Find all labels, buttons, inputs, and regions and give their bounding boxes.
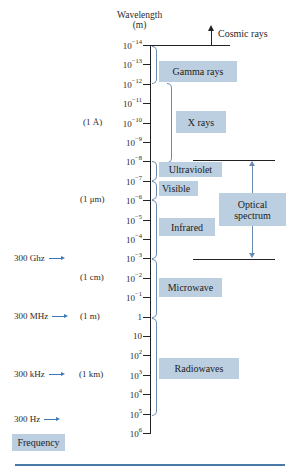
optical-arrow-down-icon (249, 253, 255, 258)
axis-tick-label: 10−11 (123, 96, 142, 109)
freq-300ghz: 300 Ghz (14, 253, 63, 263)
axis-title: Wavelength (m) (117, 10, 162, 30)
arrow-right-icon (44, 419, 58, 420)
axis-tick-label: 10−4 (126, 232, 142, 245)
axis-tick (143, 64, 151, 65)
axis-tick-label: 102 (130, 348, 142, 361)
axis-tick (143, 278, 151, 279)
infrared-brace (152, 200, 157, 259)
ultraviolet-box: Ultraviolet (159, 162, 222, 177)
axis-tick (143, 220, 151, 221)
axis-tick (143, 142, 151, 143)
axis-tick (143, 317, 151, 318)
bottom-rule (15, 464, 285, 466)
axis-tick-label: 10−6 (126, 193, 142, 206)
axis-tick (143, 433, 151, 434)
axis-tick (143, 414, 151, 415)
arrow-right-icon (49, 374, 63, 375)
cosmic-arrowhead-icon (208, 25, 214, 31)
optical-arrow-up-icon (249, 161, 255, 166)
gamma-brace (152, 46, 157, 84)
axis-tick-label: 10−12 (123, 77, 142, 90)
frequency-label-box: Frequency (12, 434, 65, 451)
axis-tick-label: 10−13 (123, 57, 142, 70)
axis-tick-label: 10−1 (126, 290, 142, 303)
axis-tick (143, 103, 151, 104)
axis-tick-label: 1 (138, 312, 143, 322)
axis-tick-label: 10−10 (123, 116, 142, 129)
optical-spectrum-box: Optical spectrum (219, 193, 286, 226)
freq-300hz: 300 Hz (14, 414, 58, 424)
top-cap-line (150, 45, 230, 46)
axis-tick-label: 10−2 (126, 271, 142, 284)
freq-300mhz: 300 MHz (14, 311, 66, 321)
axis-tick (143, 258, 151, 259)
radio-brace (152, 318, 157, 416)
axis-tick (143, 239, 151, 240)
axis-tick-label: 10−9 (126, 135, 142, 148)
axis-tick-label: 10−14 (123, 38, 142, 51)
arrow-right-icon (52, 316, 66, 317)
axis-tick-label: 105 (130, 407, 142, 420)
freq-300khz: 300 kHz (14, 369, 63, 379)
axis-tick (143, 394, 151, 395)
visible-box: Visible (159, 181, 198, 196)
axis-tick (143, 45, 151, 46)
optical-top-line (193, 160, 275, 161)
axis-tick-label: 10−8 (126, 154, 142, 167)
x-rays-box: X rays (176, 111, 226, 133)
axis-tick-label: 10 (133, 331, 142, 341)
axis-tick (143, 161, 151, 162)
arrow-right-icon (49, 258, 63, 259)
axis-tick-label: 106 (130, 426, 142, 439)
marker-1-angstrom: (1 Å) (83, 117, 102, 127)
uv-brace (152, 161, 157, 181)
marker-1-centimeter: (1 cm) (80, 272, 104, 282)
axis-tick (143, 123, 151, 124)
xray-brace (167, 83, 172, 163)
axis-tick-label: 103 (130, 368, 142, 381)
axis-tick (143, 336, 151, 337)
microwave-brace (152, 259, 157, 318)
gamma-rays-box: Gamma rays (159, 61, 237, 82)
axis-tick-label: 10−7 (126, 174, 142, 187)
axis-tick-label: 10−5 (126, 213, 142, 226)
marker-1-micrometer: (1 μm) (80, 194, 105, 204)
axis-tick (143, 84, 151, 85)
axis-tick (143, 181, 151, 182)
axis-tick (143, 200, 151, 201)
axis-tick-label: 10−3 (126, 251, 142, 264)
optical-bottom-line (193, 259, 275, 260)
microwave-box: Microwave (159, 278, 222, 297)
marker-1-meter: (1 m) (80, 311, 100, 321)
visible-brace (152, 181, 157, 200)
axis-tick (143, 375, 151, 376)
axis-tick-label: 104 (130, 387, 142, 400)
marker-1-kilometer: (1 km) (79, 369, 103, 379)
cosmic-rays-label: Cosmic rays (218, 28, 268, 39)
infrared-box: Infrared (159, 218, 215, 236)
radiowaves-box: Radiowaves (159, 358, 239, 379)
axis-tick (143, 355, 151, 356)
axis-tick (143, 297, 151, 298)
